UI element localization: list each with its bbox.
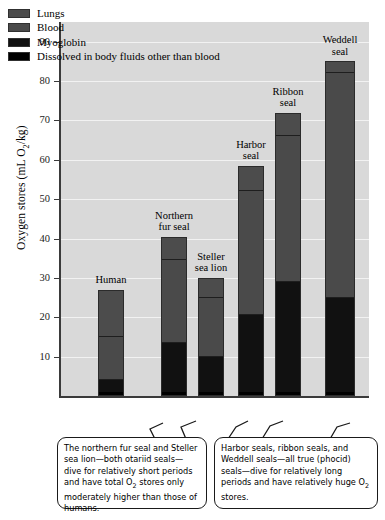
y-axis-line [59, 22, 61, 397]
gridline-70 [60, 120, 369, 121]
bar-segment-myoglobin [198, 357, 224, 392]
y-tick-label-10: 10 [24, 352, 50, 362]
bar-segment-blood [325, 73, 355, 297]
callout-right-line3: seals—dive for relatively long [221, 466, 342, 476]
legend: LungsBloodMyoglobinDissolved in body flu… [8, 6, 220, 64]
bar-segment-blood [275, 136, 301, 282]
callout-leader-lines [0, 393, 385, 441]
legend-swatch-icon [8, 52, 30, 61]
bar-human[interactable] [98, 290, 124, 396]
legend-item-myoglobin: Myoglobin [8, 35, 220, 50]
callout-phocid-seals: Harbor seals, ribbon seals, and Weddell … [214, 437, 378, 509]
bar-segment-myoglobin [238, 315, 264, 392]
callout-left-line4a: total O [105, 477, 133, 487]
bar-segment-blood [238, 191, 264, 315]
figure-root: Oxygen stores (mL O2/kg) 908070605040302… [0, 0, 385, 520]
bar-segment-divider-0 [325, 72, 355, 73]
callout-right-line5-subscript: 2 [365, 482, 369, 490]
bar-segment-myoglobin [98, 380, 124, 392]
y-tick-label-60: 60 [24, 155, 50, 165]
bar-harbor-seal[interactable] [238, 166, 264, 396]
bar-steller-sea-lion[interactable] [198, 278, 224, 396]
bar-segment-divider-1 [275, 281, 301, 282]
legend-swatch-icon [8, 9, 30, 18]
bar-segment-divider-0 [275, 135, 301, 136]
bar-segment-lungs [98, 290, 124, 337]
bar-segment-divider-1 [325, 297, 355, 298]
legend-label: Blood [37, 22, 64, 33]
gridline-80 [60, 81, 369, 82]
y-tick-label-40: 40 [24, 234, 50, 244]
legend-swatch-icon [8, 23, 30, 32]
y-tick-label-20: 20 [24, 312, 50, 322]
callout-right-line5b: stores. [221, 492, 249, 502]
legend-item-lungs: Lungs [8, 6, 220, 21]
legend-item-blood: Blood [8, 21, 220, 36]
legend-label: Lungs [37, 8, 65, 19]
bar-label-ribbon-seal: Ribbon seal [255, 86, 321, 109]
gridline-50 [60, 199, 369, 200]
bar-segment-myoglobin [275, 282, 301, 392]
bar-segment-blood [198, 298, 224, 357]
bar-segment-divider-0 [238, 190, 264, 191]
bar-segment-divider-1 [161, 342, 187, 343]
bar-segment-lungs [238, 166, 264, 192]
y-tick-label-70: 70 [24, 115, 50, 125]
legend-label: Dissolved in body fluids other than bloo… [37, 51, 220, 62]
legend-item-dissolved: Dissolved in body fluids other than bloo… [8, 50, 220, 65]
bar-segment-divider-1 [98, 379, 124, 380]
bar-segment-myoglobin [161, 343, 187, 392]
bar-segment-lungs [198, 278, 224, 298]
bar-weddell-seal[interactable] [325, 61, 355, 396]
bar-segment-divider-1 [238, 314, 264, 315]
callout-otariid-seals: The northern fur seal and Steller sea li… [57, 437, 207, 509]
callout-right-line1: Harbor seals, ribbon seals, and [221, 443, 348, 453]
callout-right-line2: Weddell seals—all true (phocid) [221, 454, 351, 464]
legend-swatch-icon [8, 38, 30, 47]
y-axis-title-subscript: 2 [22, 144, 31, 148]
bar-segment-divider-0 [198, 297, 224, 298]
bar-ribbon-seal[interactable] [275, 113, 301, 396]
y-tick-label-50: 50 [24, 194, 50, 204]
bar-label-northern-fur-seal: Northern fur seal [141, 210, 207, 233]
legend-label: Myoglobin [37, 37, 86, 48]
gridline-40 [60, 239, 369, 240]
bar-label-steller-sea-lion: Steller sea lion [178, 251, 244, 274]
y-tick-label-30: 30 [24, 273, 50, 283]
callout-right-line4: periods and have relatively huge [221, 477, 356, 487]
bar-segment-divider-1 [198, 356, 224, 357]
bar-segment-divider-0 [98, 336, 124, 337]
bar-label-human: Human [78, 274, 144, 286]
bar-segment-lungs [275, 113, 301, 137]
bar-segment-blood [98, 337, 124, 380]
plot-area: 908070605040302010HumanNorthern fur seal… [60, 22, 369, 396]
y-tick-label-80: 80 [24, 76, 50, 86]
gridline-60 [60, 160, 369, 161]
bar-segment-myoglobin [325, 298, 355, 392]
y-axis-title-part2: /kg) [15, 125, 27, 144]
bar-label-weddell-seal: Weddell seal [307, 34, 373, 57]
